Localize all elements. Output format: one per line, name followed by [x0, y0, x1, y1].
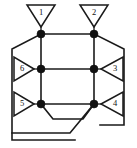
- terminal-3[interactable]: 3: [101, 57, 123, 81]
- terminal-6[interactable]: 6: [14, 57, 34, 81]
- edge-outer-left: [12, 34, 75, 140]
- terminal-4[interactable]: 4: [101, 92, 123, 116]
- node-middle-left[interactable]: [37, 65, 45, 73]
- node-bottom-left[interactable]: [37, 100, 45, 108]
- terminal-3-label: 3: [113, 63, 117, 73]
- terminal-2-label: 2: [92, 7, 96, 17]
- terminal-2[interactable]: 2: [80, 5, 108, 27]
- node-top-left[interactable]: [37, 30, 45, 38]
- node-bottom-right[interactable]: [90, 100, 98, 108]
- network-diagram: 1 2 3 4 5 6: [0, 0, 137, 148]
- node-top-right[interactable]: [90, 30, 98, 38]
- terminal-6-label: 6: [20, 63, 24, 73]
- terminal-5[interactable]: 5: [14, 92, 34, 116]
- terminal-1[interactable]: 1: [27, 5, 55, 27]
- terminal-5-label: 5: [20, 98, 24, 108]
- edge-bottom-bypass: [41, 104, 94, 119]
- diagram-canvas: 1 2 3 4 5 6: [0, 0, 137, 148]
- terminal-1-label: 1: [39, 7, 43, 17]
- node-middle-right[interactable]: [90, 65, 98, 73]
